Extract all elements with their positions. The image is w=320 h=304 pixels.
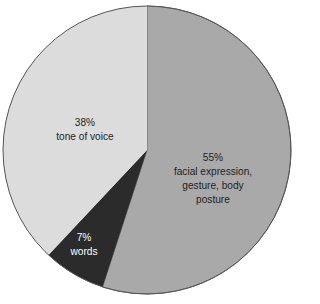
slice-label-facial-expression: 55% facial expression, gesture, body pos… (165, 150, 262, 206)
slice-percent-tone: 38% (45, 115, 124, 129)
slice-label-tone-of-voice: 38% tone of voice (45, 115, 124, 143)
slice-text-facial-line3: posture (165, 192, 262, 206)
slice-text-words-line1: words (65, 244, 104, 258)
slice-percent-facial: 55% (165, 150, 262, 164)
slice-text-facial-line2: gesture, body (165, 178, 262, 192)
slice-text-tone-line1: tone of voice (45, 129, 124, 143)
slice-label-words: 7% words (65, 230, 104, 258)
slice-percent-words: 7% (65, 230, 104, 244)
slice-text-facial-line1: facial expression, (165, 164, 262, 178)
